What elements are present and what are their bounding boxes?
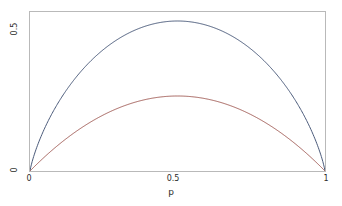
x-tick-label-1: 1 [319,174,333,183]
x-tick-label-0.5: 0.5 [163,174,183,183]
x-axis-title: p [0,187,342,197]
x-tick-label-0: 0 [22,174,36,183]
y-tick-label-0.5: 0.5 [10,19,20,39]
curve-gini-parabola [30,96,325,171]
plot-area [29,11,326,172]
plot-curves [30,12,325,171]
chart-figure: 0 0.5 1 0.5 0 p [0,0,342,206]
y-tick-label-0: 0 [10,163,20,177]
